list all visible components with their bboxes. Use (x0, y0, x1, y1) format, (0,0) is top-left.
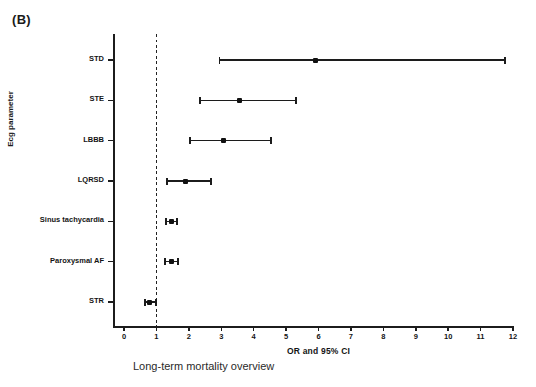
y-axis-tick-label: STE (89, 94, 104, 103)
x-axis-tick (318, 326, 320, 331)
x-axis-tick-label: 9 (414, 332, 418, 341)
x-axis-tick-label: 0 (122, 332, 126, 341)
odds-ratio-point (183, 179, 188, 184)
odds-ratio-point (237, 98, 242, 103)
x-axis-tick (480, 326, 482, 331)
confidence-interval-line (219, 59, 505, 61)
ci-cap-high (177, 258, 179, 265)
forest-plot-figure: (B) Ecg parameter STDSTELBBBLQRSDSinus t… (0, 0, 536, 387)
ci-cap-low (189, 137, 191, 144)
ci-cap-high (155, 299, 157, 306)
y-axis-tick-label: STR (89, 296, 104, 305)
x-axis-tick-label: 4 (252, 332, 256, 341)
x-axis-tick-label: 12 (509, 332, 517, 341)
x-axis-tick (253, 326, 255, 331)
x-axis-tick-label: 2 (187, 332, 191, 341)
ci-cap-high (504, 57, 506, 64)
ci-cap-high (210, 178, 212, 185)
x-axis-tick (415, 326, 417, 331)
x-axis-tick (156, 326, 158, 331)
x-axis-tick (188, 326, 190, 331)
ci-cap-high (295, 97, 297, 104)
odds-ratio-point (169, 219, 174, 224)
x-axis-tick-label: 6 (316, 332, 320, 341)
x-axis-tick-label: 10 (444, 332, 452, 341)
y-axis-tick (108, 140, 114, 142)
y-axis-tick-label: LQRSD (78, 175, 104, 184)
confidence-interval-line (167, 180, 211, 182)
y-axis-tick (108, 180, 114, 182)
odds-ratio-point (313, 58, 318, 63)
x-axis-tick-label: 11 (477, 332, 485, 341)
y-axis-tick (108, 261, 114, 263)
confidence-interval-line (190, 140, 271, 142)
y-axis-tick-label: Sinus tachycardia (40, 215, 104, 224)
x-axis-spine (113, 326, 513, 328)
x-axis-title: OR and 95% CI (124, 346, 513, 356)
y-axis-tick (108, 100, 114, 102)
x-axis-tick-label: 8 (381, 332, 385, 341)
x-axis-tick (383, 326, 385, 331)
ci-cap-low (219, 57, 221, 64)
x-axis-tick-label: 7 (349, 332, 353, 341)
y-axis-tick-label: STD (89, 54, 104, 63)
x-axis-tick (512, 326, 514, 331)
x-axis-tick-label: 5 (284, 332, 288, 341)
ci-cap-low (166, 178, 168, 185)
panel-label: (B) (12, 12, 31, 27)
y-axis-tick (108, 221, 114, 223)
x-axis-tick (123, 326, 125, 331)
x-axis-tick (350, 326, 352, 331)
reference-line-or-1 (156, 34, 158, 326)
y-axis-tick-label: LBBB (83, 135, 104, 144)
ci-cap-low (164, 258, 166, 265)
odds-ratio-point (147, 300, 152, 305)
x-axis-tick (447, 326, 449, 331)
ci-cap-low (165, 218, 167, 225)
y-axis-tick (108, 59, 114, 61)
x-axis-tick-label: 3 (219, 332, 223, 341)
ci-cap-low (199, 97, 201, 104)
ci-cap-high (270, 137, 272, 144)
confidence-interval-line (200, 100, 296, 102)
y-axis-tick-label: Paroxysmal AF (50, 256, 104, 265)
x-axis-tick-label: 1 (154, 332, 158, 341)
plot-area: STDSTELBBBLQRSDSinus tachycardiaParoxysm… (124, 34, 513, 326)
x-axis-tick (221, 326, 223, 331)
odds-ratio-point (221, 138, 226, 143)
figure-caption: Long-term mortality overview (133, 360, 274, 372)
y-axis-title: Ecg parameter (6, 64, 15, 174)
odds-ratio-point (169, 259, 174, 264)
y-axis-tick (108, 301, 114, 303)
x-axis-tick (285, 326, 287, 331)
ci-cap-high (176, 218, 178, 225)
ci-cap-low (144, 299, 146, 306)
